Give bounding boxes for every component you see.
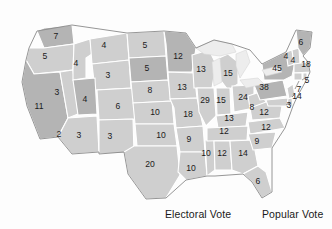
vote-count-al: 12 [217,148,227,158]
vote-count-mo: 18 [183,109,193,119]
vote-count-in: 15 [216,95,226,105]
vote-count-la: 10 [186,163,196,173]
state-shape-TX[interactable] [124,146,180,199]
vote-count-ga: 14 [238,148,248,158]
vote-count-nh: 4 [291,55,296,65]
vote-count-ms: 10 [201,148,211,158]
vote-count-sc: 9 [255,136,260,146]
vote-count-ok: 10 [156,130,166,140]
state-shape-OR[interactable] [26,44,74,74]
electoral-vote-label: Electoral Vote [165,208,231,220]
vote-count-ma: 18 [301,59,311,69]
vote-count-nj: 14 [292,91,302,101]
vote-count-wa: 7 [54,31,59,41]
state-shape-MT[interactable] [90,33,129,64]
vote-count-nv: 3 [55,87,60,97]
vote-count-ar: 9 [187,134,192,144]
vote-count-ri: 5 [305,75,310,85]
vote-count-fl: 6 [256,176,261,186]
vote-count-or: 5 [43,51,48,61]
vote-count-sd: 5 [145,63,150,73]
vote-count-oh: 24 [238,92,248,102]
state-shape-MD[interactable] [266,98,288,106]
vote-count-ia: 13 [177,82,187,92]
vote-count-ky: 13 [224,113,234,123]
vote-count-tn: 12 [219,126,229,136]
map-svg: 7511344343263558101020121318910132910151… [0,0,332,229]
vote-count-tx: 20 [145,159,155,169]
vote-count-nc: 12 [261,122,271,132]
vote-count-me: 6 [299,37,304,47]
vote-count-az: 3 [77,130,82,140]
vote-count-mi: 15 [223,68,233,78]
vote-count-il: 29 [200,95,210,105]
lake-michigan-shape [212,58,222,86]
vote-count-id: 4 [74,58,79,68]
vote-count-wv: 8 [250,102,255,112]
vote-count-ny: 45 [272,63,282,73]
vote-count-co: 6 [116,101,121,111]
vote-count-nm: 3 [108,131,113,141]
popular-vote-label: Popular Vote [262,208,323,220]
vote-count-cas: 2 [57,129,62,139]
vote-count-ut: 4 [83,94,88,104]
vote-count-vt: 4 [284,51,289,61]
vote-count-mn: 12 [173,51,183,61]
vote-count-ks: 10 [150,107,160,117]
us-electoral-map: 7511344343263558101020121318910132910151… [0,0,332,229]
vote-count-pa: 38 [259,82,269,92]
vote-count-wy: 3 [106,70,111,80]
vote-count-wi: 13 [196,64,206,74]
vote-count-de: 3 [287,100,292,110]
vote-count-mt: 4 [102,40,107,50]
vote-count-va: 12 [259,107,269,117]
vote-count-nd: 5 [143,40,148,50]
vote-count-ca: 11 [35,101,44,111]
state-shape-SC[interactable] [248,132,276,150]
state-shape-CT[interactable] [294,73,302,80]
state-shape-WY[interactable] [92,60,131,90]
vote-count-ne: 8 [148,85,153,95]
